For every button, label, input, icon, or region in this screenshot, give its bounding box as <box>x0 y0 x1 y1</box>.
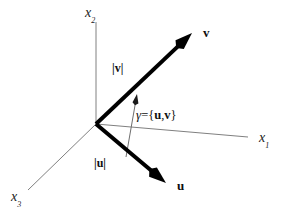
diagram-canvas <box>0 0 286 212</box>
axis-label-x1-subscript: 1 <box>265 141 269 150</box>
axis-label-x2: x2 <box>85 6 95 23</box>
vector-label-u: u <box>177 179 184 192</box>
vector-arrowhead-u <box>149 167 166 183</box>
axis-label-x1: x1 <box>259 131 269 148</box>
angle-indicator-arrowhead <box>133 94 139 105</box>
magnitude-label-u: |u| <box>94 157 106 169</box>
vector-label-v: v <box>203 26 210 39</box>
angle-equation-label: γ={u,v} <box>136 108 177 122</box>
axes-group <box>28 22 248 190</box>
axis-label-x2-subscript: 2 <box>91 16 95 25</box>
axis-line-x3 <box>28 124 96 190</box>
vector-arrowhead-v <box>176 33 192 49</box>
axis-label-x3-subscript: 3 <box>17 200 21 209</box>
vector-angle-diagram: x2 x1 x3 v u |v| |u| γ={u,v} <box>0 0 286 212</box>
angle-indicator-group <box>126 94 138 157</box>
close-brace: } <box>171 108 177 122</box>
axis-line-x1 <box>96 124 248 137</box>
magnitude-label-v: |v| <box>112 62 123 74</box>
axis-label-x3: x3 <box>11 190 21 207</box>
